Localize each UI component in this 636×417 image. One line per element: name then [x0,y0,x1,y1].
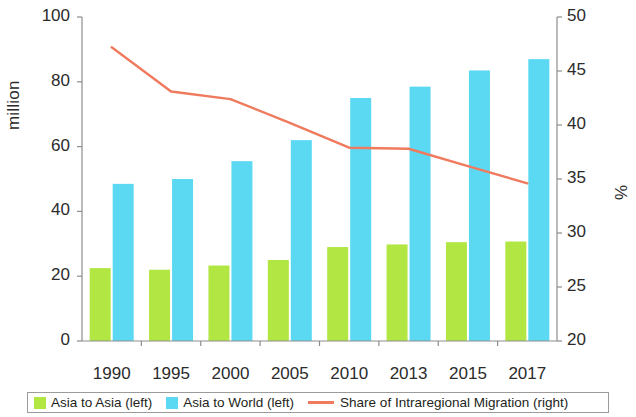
legend-square-swatch-icon [166,397,178,409]
bar-2005-series1 [291,140,312,341]
legend-item-label: Asia to Asia (left) [51,395,152,410]
bar-2000-series1 [231,161,252,341]
bar-2015-series1 [469,70,490,341]
bar-2015-series0 [446,242,467,341]
bar-1990-series0 [90,268,111,341]
legend-item-0: Asia to Asia (left) [34,395,152,410]
line-series-group [112,47,528,183]
legend-item-2: Share of Intraregional Migration (right) [308,395,568,410]
chart-container: million % 020406080100 20253035404550 19… [0,0,636,417]
legend-item-label: Asia to World (left) [183,395,294,410]
plot-area [0,0,636,417]
bars-group [90,59,550,341]
legend-item-1: Asia to World (left) [166,395,294,410]
bar-1995-series1 [172,179,193,341]
legend-line-swatch-icon [308,401,334,404]
bar-2017-series0 [505,242,526,341]
bar-2000-series0 [208,266,229,341]
legend-square-swatch-icon [34,397,46,409]
bar-2013-series0 [387,244,408,341]
bar-2005-series0 [268,260,289,341]
legend-item-label: Share of Intraregional Migration (right) [340,395,568,410]
bar-1995-series0 [149,270,170,341]
bar-2010-series0 [327,247,348,341]
line-series-share-of-intraregional-migration [112,47,528,183]
bar-2010-series1 [350,98,371,341]
bar-2017-series1 [528,59,549,341]
chart-legend: Asia to Asia (left)Asia to World (left)S… [27,392,609,413]
bar-1990-series1 [113,184,134,341]
bar-2013-series1 [410,87,431,341]
